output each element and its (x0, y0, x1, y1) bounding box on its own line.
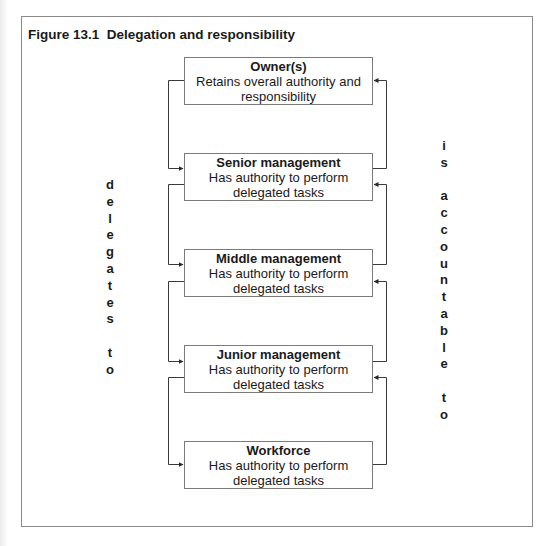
accountable-arrow-junior-middle (373, 282, 387, 362)
vchar: e (103, 194, 117, 211)
vchar: l (103, 211, 117, 228)
accountable-arrow-senior-owner (373, 81, 387, 169)
delegates-to-label: d e l e g a t e s t o (103, 177, 117, 379)
vchar: o (103, 362, 117, 379)
box-junior-management: Junior management Has authority to perfo… (184, 345, 373, 393)
vchar: l (437, 340, 451, 357)
vchar (437, 172, 451, 189)
vchar: d (103, 177, 117, 194)
box-middle-desc-line2: delegated tasks (185, 281, 372, 296)
vchar: t (103, 345, 117, 362)
accountable-arrow-workforce-junior (373, 378, 387, 465)
is-accountable-to-label: i s a c c o u n t a b l e t o (437, 138, 451, 424)
box-middle-desc-line1: Has authority to perform (185, 266, 372, 281)
box-senior-desc-line2: delegated tasks (185, 185, 372, 200)
vchar: e (103, 295, 117, 312)
vchar: e (437, 356, 451, 373)
vchar: t (437, 289, 451, 306)
delegate-arrow-junior-workforce (169, 378, 185, 465)
box-senior-management: Senior management Has authority to perfo… (184, 153, 373, 201)
box-owner-title: Owner(s) (185, 59, 372, 74)
box-middle-management: Middle management Has authority to perfo… (184, 249, 373, 297)
vchar: b (437, 323, 451, 340)
delegate-arrow-owner-senior (169, 81, 185, 169)
box-junior-title: Junior management (185, 347, 372, 362)
box-junior-desc-line1: Has authority to perform (185, 362, 372, 377)
delegate-arrow-middle-junior (169, 282, 185, 362)
vchar (437, 373, 451, 390)
vchar: c (437, 222, 451, 239)
vchar: o (437, 407, 451, 424)
vchar: a (437, 306, 451, 323)
box-workforce-desc-line2: delegated tasks (185, 473, 372, 488)
box-senior-desc-line1: Has authority to perform (185, 170, 372, 185)
vchar: g (103, 244, 117, 261)
box-workforce-desc-line1: Has authority to perform (185, 458, 372, 473)
box-owner: Owner(s) Retains overall authority and r… (184, 57, 373, 105)
box-owner-desc-line2: responsibility (185, 89, 372, 104)
box-workforce-title: Workforce (185, 443, 372, 458)
vchar: a (437, 188, 451, 205)
vchar: t (437, 390, 451, 407)
vchar: n (437, 272, 451, 289)
vchar (103, 328, 117, 345)
box-junior-desc-line2: delegated tasks (185, 377, 372, 392)
vchar: a (103, 261, 117, 278)
box-owner-desc-line1: Retains overall authority and (185, 74, 372, 89)
box-middle-title: Middle management (185, 251, 372, 266)
vchar: u (437, 256, 451, 273)
vchar: s (437, 155, 451, 172)
vchar: o (437, 239, 451, 256)
vchar: t (103, 278, 117, 295)
box-workforce: Workforce Has authority to perform deleg… (184, 441, 373, 489)
vchar: s (103, 311, 117, 328)
vchar: e (103, 227, 117, 244)
vchar: i (437, 138, 451, 155)
delegate-arrow-senior-middle (169, 185, 185, 265)
accountable-arrow-middle-senior (373, 185, 387, 265)
box-senior-title: Senior management (185, 155, 372, 170)
vchar: c (437, 205, 451, 222)
